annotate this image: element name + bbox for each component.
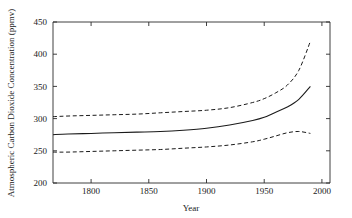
- y-axis-title: Atmospheric Carbon Dioxide Concentration…: [6, 9, 16, 197]
- x-axis-title: Year: [183, 203, 200, 213]
- x-tick-label: 1850: [140, 186, 159, 196]
- x-tick-label: 1900: [198, 186, 217, 196]
- series-line-0: [53, 41, 310, 116]
- y-tick-label: 450: [34, 17, 48, 27]
- x-tick-label: 2000: [313, 186, 332, 196]
- y-tick-label: 250: [34, 146, 48, 156]
- series-line-2: [53, 131, 310, 152]
- x-tick-labels: 18001850190019502000: [82, 186, 331, 196]
- y-tick-labels: 200250300350400450: [34, 17, 48, 188]
- co2-line-chart: 200250300350400450 18001850190019502000 …: [0, 0, 352, 218]
- series-line-1: [53, 86, 310, 134]
- y-tick-label: 300: [34, 114, 48, 124]
- data-series: [53, 41, 310, 152]
- tick-marks: [53, 22, 330, 183]
- axes: [53, 22, 330, 183]
- y-tick-label: 400: [34, 49, 48, 59]
- plot-frame: [53, 22, 330, 183]
- x-tick-label: 1950: [255, 186, 274, 196]
- y-tick-label: 200: [34, 178, 48, 188]
- x-tick-label: 1800: [82, 186, 101, 196]
- chart-figure: 200250300350400450 18001850190019502000 …: [0, 0, 352, 218]
- y-tick-label: 350: [34, 82, 48, 92]
